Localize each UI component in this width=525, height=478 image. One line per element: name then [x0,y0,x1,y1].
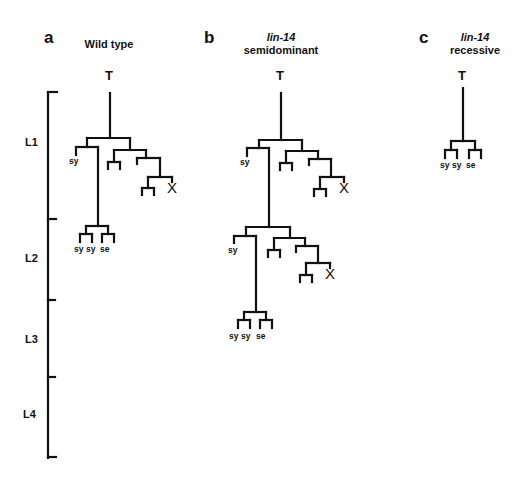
panel-c-leaf-se: se [466,160,475,170]
panel-b-leaf-sy-2: sy [241,331,250,341]
panel-b-leaf-se: se [256,331,265,341]
panel-b-leaf-sy-early-1: sy [240,157,249,167]
lineage-diagram [0,0,525,478]
panel-a-death-mark: X [167,179,177,196]
developmental-timeline [48,92,57,458]
panel-a-leaf-sy-1: sy [74,244,83,254]
panel-a-leaf-sy-early: sy [69,156,78,166]
panel-a-leaf-se: se [100,244,109,254]
panel-b-leaf-sy-1: sy [229,331,238,341]
panel-c-leaf-sy-2: sy [452,160,461,170]
panel-c-leaf-sy-1: sy [440,160,449,170]
panel-b-leaf-sy-early-2: sy [228,245,237,255]
panel-a-lineage-tree [76,93,172,242]
panel-c-lineage-tree [445,88,481,158]
panel-b-death-mark-1: X [339,179,349,196]
panel-a-leaf-sy-2: sy [86,244,95,254]
panel-b-lineage-tree [234,93,344,328]
panel-b-death-mark-2: X [325,265,335,282]
